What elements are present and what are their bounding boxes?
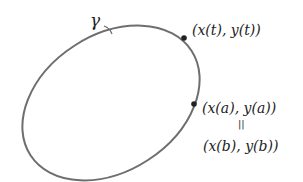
point-a bbox=[191, 101, 197, 107]
curve-label: γ bbox=[90, 10, 100, 30]
point-a-label: (x(a), y(a)) bbox=[202, 100, 276, 116]
point-t-label: (x(t), y(t)) bbox=[192, 22, 261, 38]
point-t bbox=[181, 35, 187, 41]
equals-label: || bbox=[238, 118, 245, 129]
point-b-label: (x(b), y(b)) bbox=[203, 138, 278, 154]
